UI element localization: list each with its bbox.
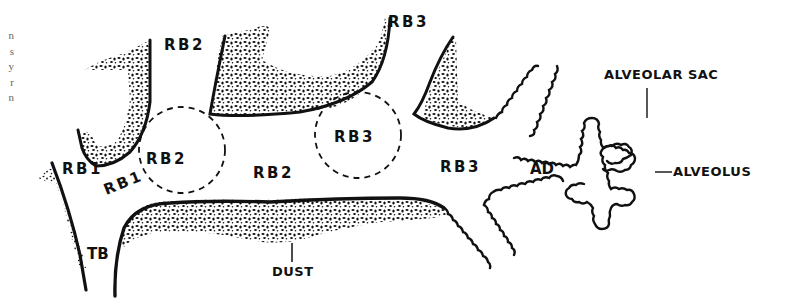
label-alveolar-sac: ALVEOLAR SAC <box>604 67 718 82</box>
label-alveolus: ALVEOLUS <box>673 164 751 179</box>
label-rb1-upper: RB1 <box>62 160 103 178</box>
label-rb3-mid: RB3 <box>440 158 481 176</box>
rb3-upper-pocket <box>414 37 496 129</box>
lung-airway-diagram: n s y r n <box>0 0 788 300</box>
diagram-drawing <box>0 0 788 300</box>
terminal-bronchiole-left-wall <box>38 163 86 290</box>
label-rb3-circle: RB3 <box>334 128 375 146</box>
label-tb: TB <box>87 245 109 263</box>
label-rb2-circle: RB2 <box>146 150 187 168</box>
respiratory-bronchiole-floor-wall <box>115 198 446 296</box>
label-rb3-top: RB3 <box>388 13 429 31</box>
label-rb2-mid: RB2 <box>253 164 294 182</box>
label-ad: AD <box>530 160 554 178</box>
label-dust: DUST <box>272 264 314 279</box>
label-rb2-top: RB2 <box>164 36 205 54</box>
rb2-upper-wall <box>210 18 390 117</box>
